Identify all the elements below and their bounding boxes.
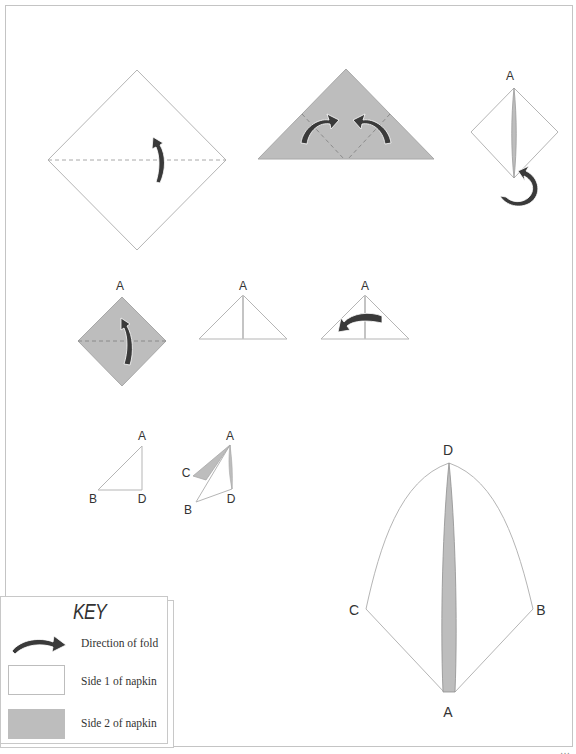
label-d: D (443, 442, 453, 458)
key-label-side1: Side 1 of napkin (81, 675, 157, 687)
step-1-diagram (48, 70, 226, 250)
label-a: A (116, 279, 124, 293)
key-label-direction: Direction of fold (81, 637, 158, 649)
label-a: A (361, 279, 369, 293)
label-c: C (182, 466, 191, 480)
label-b: B (184, 503, 192, 517)
label-c: C (349, 602, 359, 618)
label-a: A (226, 429, 234, 443)
label-a: A (443, 704, 453, 720)
label-a: A (506, 69, 514, 83)
side1-swatch (8, 665, 65, 695)
key-label-side2: Side 2 of napkin (81, 717, 157, 729)
side2-swatch (8, 709, 65, 739)
label-b: B (536, 602, 545, 618)
turn-over-arrow-icon (500, 166, 538, 206)
label-a: A (239, 279, 247, 293)
label-b: B (89, 492, 97, 506)
step-2-diagram (258, 69, 434, 159)
key-title: KEY (73, 599, 106, 625)
label-d: D (227, 492, 236, 506)
label-d: D (138, 492, 147, 506)
footer-text-clipped: … (560, 746, 570, 754)
step-4-diagram: A (78, 279, 166, 386)
step-3-diagram: A (471, 69, 558, 206)
step-7-diagram: A B D (89, 429, 147, 506)
step-6-diagram: A (321, 279, 409, 339)
step-8-diagram: A C B D (182, 429, 236, 517)
fold-arrow-icon (9, 633, 69, 657)
step-9-diagram: D C B A (349, 442, 546, 720)
key-panel: KEY Direction of fold Side 1 of napkin S… (0, 596, 168, 744)
label-a: A (138, 429, 146, 443)
step-5-diagram: A (199, 279, 287, 339)
